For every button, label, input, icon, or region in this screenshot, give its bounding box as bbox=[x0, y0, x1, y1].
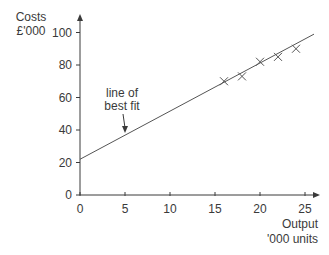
annotation-line1: line of bbox=[106, 86, 139, 100]
data-point-x-marker-icon bbox=[274, 53, 282, 61]
y-tick-label: 0 bbox=[65, 188, 72, 202]
x-tick-label: 25 bbox=[298, 202, 312, 216]
x-tick-label: 5 bbox=[122, 202, 129, 216]
ticks: 0510152025020406080100 bbox=[52, 26, 312, 217]
annotation-line2: best fit bbox=[104, 99, 140, 113]
x-axis-label: Output bbox=[282, 217, 319, 231]
chart-canvas: 0510152025020406080100 Costs £'000 Outpu… bbox=[0, 0, 329, 255]
y-axis-label: Costs bbox=[16, 10, 47, 24]
data-point-x-marker-icon bbox=[292, 45, 300, 53]
x-tick-label: 20 bbox=[253, 202, 267, 216]
annotation-arrow-icon bbox=[122, 114, 128, 133]
y-axis-unit: £'000 bbox=[17, 24, 46, 38]
y-tick-label: 20 bbox=[59, 156, 73, 170]
y-tick-label: 100 bbox=[52, 26, 72, 40]
y-tick-label: 60 bbox=[59, 91, 73, 105]
x-tick-label: 0 bbox=[77, 202, 84, 216]
data-point-x-marker-icon bbox=[238, 72, 246, 80]
y-axis-arrow-icon bbox=[77, 14, 83, 21]
data-points bbox=[220, 45, 300, 86]
y-tick-label: 40 bbox=[59, 123, 73, 137]
x-tick-label: 15 bbox=[208, 202, 222, 216]
x-axis-arrow-icon bbox=[313, 192, 320, 198]
x-axis-unit: '000 units bbox=[267, 232, 318, 246]
y-tick-label: 80 bbox=[59, 58, 73, 72]
x-tick-label: 10 bbox=[163, 202, 177, 216]
